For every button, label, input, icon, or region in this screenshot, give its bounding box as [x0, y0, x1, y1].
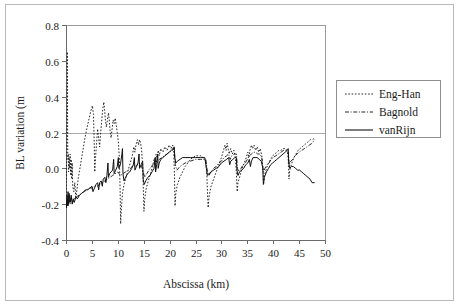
x-axis-title: Abscissa (km) — [163, 278, 229, 291]
y-tick-label-0.0: 0.0 — [45, 163, 59, 175]
chart-canvas: 05101520253035404550 0.80.60.40.20.0-0.2… — [0, 0, 459, 306]
x-tick-label-20: 20 — [165, 247, 177, 259]
legend-label-vanrijn: vanRijn — [379, 124, 416, 137]
series-line-eng-han — [66, 52, 315, 224]
series-line-bagnold — [66, 140, 315, 206]
plot-frame — [66, 25, 326, 241]
y-tick-label--0.2: -0.2 — [42, 199, 59, 211]
y-tick-label-0.4: 0.4 — [45, 92, 59, 104]
x-tick-label-40: 40 — [268, 247, 280, 259]
series-line-vanrijn — [66, 147, 315, 208]
x-tick-labels: 05101520253035404550 — [64, 247, 332, 259]
tick-marks-group — [62, 26, 326, 245]
y-axis-title: BL variation (m — [14, 96, 27, 170]
legend: Eng-HanBagnoldvanRijn — [337, 81, 441, 138]
x-tick-label-25: 25 — [191, 247, 203, 259]
y-tick-label--0.4: -0.4 — [42, 235, 60, 247]
x-tick-label-5: 5 — [90, 247, 96, 259]
y-tick-label-0.6: 0.6 — [45, 56, 59, 68]
x-tick-label-0: 0 — [64, 247, 70, 259]
y-tick-label-0.2: 0.2 — [45, 128, 59, 140]
data-series-group — [66, 52, 315, 224]
x-tick-label-15: 15 — [139, 247, 151, 259]
x-tick-label-50: 50 — [320, 247, 332, 259]
legend-label-eng-han: Eng-Han — [379, 88, 421, 101]
x-tick-label-30: 30 — [216, 247, 228, 259]
x-tick-label-10: 10 — [113, 247, 125, 259]
x-tick-label-45: 45 — [294, 247, 306, 259]
y-tick-label-0.8: 0.8 — [45, 20, 59, 32]
legend-label-bagnold: Bagnold — [379, 106, 418, 119]
x-tick-label-35: 35 — [242, 247, 254, 259]
y-tick-labels: 0.80.60.40.20.0-0.2-0.4 — [42, 20, 60, 247]
figure-container: 05101520253035404550 0.80.60.40.20.0-0.2… — [0, 0, 459, 306]
